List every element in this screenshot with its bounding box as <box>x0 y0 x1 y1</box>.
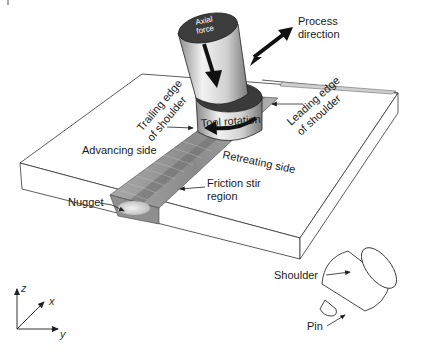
x-axis-arrow-icon <box>17 302 44 329</box>
friction-stir-label-2: region <box>207 190 238 202</box>
process-direction-label-1: Process <box>298 15 338 27</box>
z-axis-label: z <box>20 282 27 294</box>
nugget-region <box>118 201 150 215</box>
pin-label: Pin <box>307 320 323 332</box>
x-axis-label: x <box>48 295 55 307</box>
shoulder-label: Shoulder <box>274 269 318 281</box>
process-direction-arrow-icon <box>250 27 293 66</box>
pin-pointer <box>327 315 345 326</box>
pin-body <box>320 300 336 316</box>
nugget-label: Nugget <box>68 196 103 208</box>
advancing-side-label: Advancing side <box>82 144 157 156</box>
y-axis-label: y <box>59 328 67 340</box>
friction-stir-label-1: Friction stir <box>207 177 261 189</box>
coordinate-axes: z x y <box>17 282 67 340</box>
process-direction-label-2: direction <box>298 28 340 40</box>
fsw-diagram: Axial force Process direction Tool rotat… <box>0 0 434 352</box>
